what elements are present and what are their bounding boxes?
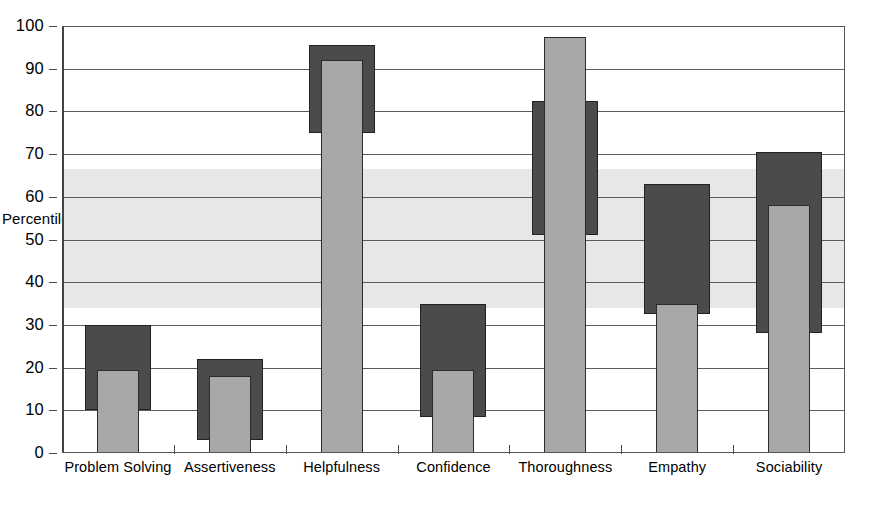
x-axis-tick-mark — [174, 445, 175, 454]
y-axis-tick-mark — [49, 410, 57, 411]
y-axis-tick-label: 0 — [35, 444, 44, 461]
y-axis-tick-mark — [49, 368, 57, 369]
y-axis-tick-label: 80 — [25, 102, 44, 119]
y-axis-tick-label: 70 — [25, 145, 44, 162]
x-axis-tick-mark — [286, 445, 287, 454]
x-axis-labels: Problem SolvingAssertivenessHelpfulnessC… — [62, 459, 845, 481]
y-axis-tick-mark — [49, 111, 57, 112]
y-axis-tick-mark — [49, 282, 57, 283]
x-axis-label: Empathy — [648, 459, 706, 475]
footnote — [0, 497, 871, 507]
x-axis-tick-mark — [733, 445, 734, 454]
y-axis-title: Percentile — [2, 210, 70, 227]
x-axis-tick-mark — [509, 445, 510, 454]
y-axis-tick-label: 100 — [16, 17, 44, 34]
x-axis-label: Sociability — [756, 459, 822, 475]
y-axis-tick-mark — [49, 197, 57, 198]
y-axis-tick-mark — [49, 26, 57, 27]
x-axis-tick-mark — [398, 445, 399, 454]
x-axis-label: Thoroughness — [518, 459, 612, 475]
y-axis-tick-label: 30 — [25, 316, 44, 333]
y-axis: 0102030405060708090100 — [0, 26, 56, 453]
y-axis-tick-label: 10 — [25, 401, 44, 418]
y-axis-tick-mark — [49, 154, 57, 155]
y-axis-tick-mark — [49, 453, 57, 454]
y-axis-tick-label: 90 — [25, 60, 44, 77]
y-axis-tick-label: 20 — [25, 359, 44, 376]
y-axis-tick-label: 60 — [25, 188, 44, 205]
x-axis-tick-mark — [621, 445, 622, 454]
x-axis-label: Helpfulness — [303, 459, 380, 475]
y-axis-tick-label: 50 — [25, 231, 44, 248]
y-axis-tick-mark — [49, 240, 57, 241]
y-axis-tick-label: 40 — [25, 273, 44, 290]
y-axis-tick-mark — [49, 69, 57, 70]
x-axis-label: Problem Solving — [64, 459, 171, 475]
chart-root: 0102030405060708090100 Percentile Proble… — [0, 0, 871, 507]
plot-area — [62, 26, 845, 453]
y-axis-tick-mark — [49, 325, 57, 326]
x-axis-label: Confidence — [416, 459, 490, 475]
plot-frame — [62, 26, 845, 453]
x-axis-label: Assertiveness — [184, 459, 276, 475]
